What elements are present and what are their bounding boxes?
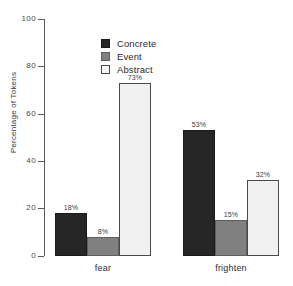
x-axis-label-fear: fear [55, 264, 151, 273]
y-axis-tick [38, 66, 44, 67]
y-axis-tick [38, 19, 44, 20]
y-axis-tick [38, 161, 44, 162]
bar-value-label: 32% [247, 171, 279, 178]
legend: Concrete Event Abstract [101, 37, 156, 76]
legend-label: Concrete [117, 39, 156, 49]
x-axis-label-frighten: frighten [183, 264, 279, 273]
y-axis-tick [38, 114, 44, 115]
legend-entry-event: Event [101, 50, 156, 63]
legend-label: Event [117, 52, 142, 62]
plot-area: 18% 8% 73% 53% 15% 32% Concrete Event [45, 19, 289, 256]
bar-frighten-abstract [247, 180, 279, 256]
legend-label: Abstract [117, 65, 153, 75]
bar-value-label: 15% [215, 211, 247, 218]
bar-group-frighten: 53% 15% 32% [183, 19, 278, 256]
abstract-swatch-icon [101, 65, 110, 74]
legend-entry-concrete: Concrete [101, 37, 156, 50]
bar-fear-concrete [55, 213, 87, 256]
legend-entry-abstract: Abstract [101, 63, 156, 76]
y-axis-tick-label: 0 [12, 252, 36, 260]
bar-value-label: 53% [183, 121, 215, 128]
y-axis-title: Percentage of Tokens [9, 38, 18, 188]
bar-frighten-concrete [183, 130, 215, 256]
event-swatch-icon [101, 52, 110, 61]
concrete-swatch-icon [101, 39, 110, 48]
y-axis-tick [38, 256, 44, 257]
y-axis-tick-label: 20 [12, 204, 36, 212]
y-axis-tick-label: 100 [12, 15, 36, 23]
bar-value-label: 8% [87, 228, 119, 235]
bar-value-label: 18% [55, 204, 87, 211]
bar-chart-figure: 100 80 60 40 20 0 Percentage of Tokens 1… [0, 0, 293, 286]
bar-frighten-event [215, 220, 247, 256]
bar-fear-event [87, 237, 119, 256]
bar-fear-abstract [119, 83, 151, 256]
y-axis-tick [38, 208, 44, 209]
